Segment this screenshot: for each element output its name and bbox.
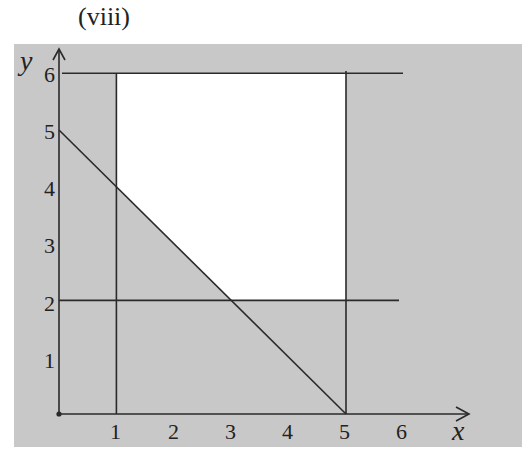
y-tick-3: 3: [44, 233, 55, 258]
x-tick-6: 6: [396, 419, 407, 444]
x-axis-label: x: [451, 415, 465, 446]
y-tick-2: 2: [44, 291, 55, 316]
x-tick-2: 2: [168, 419, 179, 444]
y-axis-label: y: [17, 45, 33, 76]
origin-point: [56, 411, 61, 416]
x-tick-4: 4: [282, 419, 293, 444]
y-tick-5: 5: [44, 119, 55, 144]
y-tick-4: 4: [44, 176, 55, 201]
region-diagram: y x 1 2 3 4 5 6 1 2 3 4 5 6: [0, 0, 528, 454]
x-tick-3: 3: [225, 419, 236, 444]
x-tick-5: 5: [339, 419, 350, 444]
y-tick-6: 6: [44, 62, 55, 87]
x-tick-1: 1: [110, 419, 121, 444]
y-tick-1: 1: [44, 348, 55, 373]
